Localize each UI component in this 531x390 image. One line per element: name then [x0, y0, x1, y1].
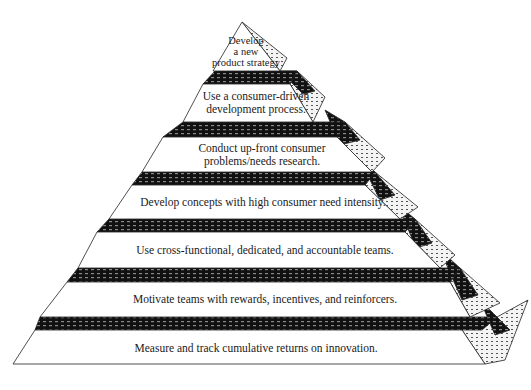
- tier-label-2: Use a consumer-driven development proces…: [203, 90, 309, 116]
- pyramid-diagram: Develop a new product strategyUse a cons…: [0, 0, 531, 390]
- tier-top-band: [67, 268, 460, 282]
- tier-top-band: [163, 122, 345, 137]
- tier-top-band: [97, 219, 415, 232]
- tier-label-1: Develop a new product strategy: [212, 35, 280, 68]
- tier-label-4: Develop concepts with high consumer need…: [140, 196, 386, 209]
- tier-top-band: [132, 172, 375, 185]
- tier-top-band: [35, 317, 497, 330]
- tier-label-6: Motivate teams with rewards, incentives,…: [133, 293, 397, 306]
- tier-label-3: Conduct up-front consumer problems/needs…: [198, 142, 325, 168]
- tier-label-7: Measure and track cumulative returns on …: [134, 342, 377, 355]
- tier-top-band: [203, 71, 297, 84]
- tier-label-5: Use cross-functional, dedicated, and acc…: [136, 244, 393, 257]
